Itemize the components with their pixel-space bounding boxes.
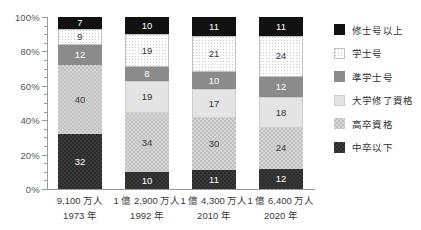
legend-item-label: 高卒資格 xyxy=(352,117,393,131)
bar-segment-master[interactable]: 7 xyxy=(58,17,102,29)
bar-segment-highschool[interactable]: 34 xyxy=(125,113,169,171)
bar-segment-value: 8 xyxy=(144,69,149,79)
y-axis-label: 80% xyxy=(20,46,40,57)
swatch-bachelor-icon xyxy=(334,48,345,59)
swatch-associate-icon xyxy=(334,71,345,82)
bar-segment-value: 9 xyxy=(77,32,82,42)
y-axis-label: 20% xyxy=(20,149,40,160)
bar-segment-value: 7 xyxy=(77,18,82,28)
legend-item-label: 修士号以上 xyxy=(352,23,403,37)
y-tick-major xyxy=(42,189,47,190)
x-label-year: 2020 年 xyxy=(235,208,327,223)
bar-segment-value: 12 xyxy=(75,50,86,60)
bar-column[interactable]: 10198193410 xyxy=(125,17,169,189)
bar-segment-college[interactable]: 17 xyxy=(192,89,236,118)
legend-item[interactable]: 学士号 xyxy=(334,42,420,66)
y-axis-label: 40% xyxy=(20,115,40,126)
bar-segment-value: 10 xyxy=(209,76,220,86)
bar-segment-value: 10 xyxy=(142,176,153,186)
bar-segment-associate[interactable]: 8 xyxy=(125,67,169,81)
swatch-highschool-icon xyxy=(334,118,345,129)
swatch-below-icon xyxy=(334,142,345,153)
bar-column[interactable]: 79124032 xyxy=(58,17,102,189)
bar-segment-value: 12 xyxy=(276,82,287,92)
bar-segment-bachelor[interactable]: 9 xyxy=(58,29,102,44)
chart-legend: 修士号以上学士号準学士号大学修了資格高卒資格中卒以下 xyxy=(334,18,420,159)
bar-segment-value: 30 xyxy=(209,139,220,149)
bar-column[interactable]: 112110173011 xyxy=(192,17,236,189)
x-label-population: 1 億 6,400 万人 xyxy=(248,195,315,206)
bar-segment-bachelor[interactable]: 24 xyxy=(259,36,303,77)
swatch-college-icon xyxy=(334,95,345,106)
bar-segment-highschool[interactable]: 40 xyxy=(58,65,102,134)
legend-item-label: 大学修了資格 xyxy=(352,93,413,107)
bar-segment-value: 11 xyxy=(276,22,286,32)
legend-item-label: 準学士号 xyxy=(352,70,393,84)
bar-segment-associate[interactable]: 12 xyxy=(58,45,102,66)
x-axis-group-label: 1 億 6,400 万人2020 年 xyxy=(235,193,327,223)
legend-item[interactable]: 修士号以上 xyxy=(334,18,420,42)
bar-segment-value: 12 xyxy=(276,174,287,184)
plot-area: 0%20%40%60%80%100% 791240321019819341011… xyxy=(47,17,315,189)
bar-segment-value: 24 xyxy=(276,51,287,61)
bar-segment-value: 32 xyxy=(75,157,86,167)
bar-group: 7912403210198193410112110173011112412182… xyxy=(47,17,315,189)
bar-segment-value: 18 xyxy=(276,108,287,118)
bar-segment-associate[interactable]: 12 xyxy=(259,77,303,97)
bar-segment-bachelor[interactable]: 21 xyxy=(192,36,236,72)
legend-item-label: 学士号 xyxy=(352,46,383,60)
bar-segment-college[interactable]: 18 xyxy=(259,97,303,128)
y-axis-label: 100% xyxy=(15,12,40,23)
x-axis-line xyxy=(47,189,315,190)
bar-segment-below[interactable]: 32 xyxy=(58,134,102,189)
bar-segment-master[interactable]: 11 xyxy=(259,17,303,36)
y-axis-label: 60% xyxy=(20,80,40,91)
bar-segment-value: 10 xyxy=(142,21,153,31)
bar-segment-below[interactable]: 12 xyxy=(259,169,303,189)
bar-segment-bachelor[interactable]: 19 xyxy=(125,34,169,67)
bar-segment-value: 11 xyxy=(209,22,219,32)
swatch-master-icon xyxy=(334,24,345,35)
bar-segment-value: 17 xyxy=(209,99,220,109)
bar-segment-associate[interactable]: 10 xyxy=(192,72,236,89)
bar-segment-highschool[interactable]: 30 xyxy=(192,118,236,170)
bar-segment-value: 19 xyxy=(142,46,153,56)
bar-segment-below[interactable]: 10 xyxy=(125,172,169,189)
bar-segment-value: 24 xyxy=(276,143,287,153)
x-label-population: 9,100 万人 xyxy=(57,195,103,206)
bar-segment-master[interactable]: 10 xyxy=(125,17,169,34)
legend-item-label: 中卒以下 xyxy=(352,140,393,154)
legend-item[interactable]: 大学修了資格 xyxy=(334,89,420,113)
legend-item[interactable]: 準学士号 xyxy=(334,65,420,89)
bar-segment-value: 19 xyxy=(142,92,153,102)
legend-item[interactable]: 高卒資格 xyxy=(334,112,420,136)
legend-item[interactable]: 中卒以下 xyxy=(334,136,420,160)
stacked-bar-chart: 0%20%40%60%80%100% 791240321019819341011… xyxy=(0,0,421,230)
bar-segment-value: 40 xyxy=(75,95,86,105)
bar-segment-value: 34 xyxy=(142,138,153,148)
bar-segment-value: 21 xyxy=(209,49,220,59)
bar-segment-college[interactable]: 19 xyxy=(125,81,169,114)
bar-segment-value: 11 xyxy=(209,175,219,185)
bar-segment-below[interactable]: 11 xyxy=(192,170,236,189)
bar-segment-highschool[interactable]: 24 xyxy=(259,128,303,169)
bar-column[interactable]: 112412182412 xyxy=(259,17,303,189)
bar-segment-master[interactable]: 11 xyxy=(192,17,236,36)
